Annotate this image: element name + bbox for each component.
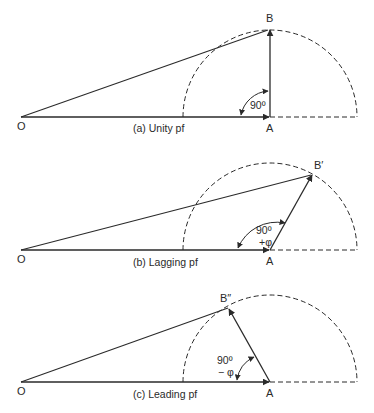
caption-b: (b) Lagging pf [133,257,198,268]
label-point-B-a: B [266,13,273,24]
label-point-O-b: O [17,254,26,265]
panel-b-lagging-pf [21,163,357,250]
label-angle-phi-b: +φ [259,237,272,248]
label-angle-b: 90º [256,225,272,236]
label-point-A-b: A [266,256,273,267]
panel-a-unity-pf [21,30,357,117]
semicircle-c [183,295,357,382]
label-point-A-a: A [266,123,273,134]
label-point-B-prime-b: B′ [314,160,323,171]
line-OB-a [21,30,268,117]
angle-arc-c [237,357,254,380]
phasor-diagram: B O A 90º (a) Unity pf B′ O A 90º +φ (b)… [0,0,374,413]
label-point-A-c: A [266,388,273,399]
label-angle-a: 90º [250,100,266,111]
diagram-drawing [0,0,374,413]
caption-a: (a) Unity pf [133,123,184,134]
label-point-O-a: O [17,121,26,132]
label-angle-phi-c: − φ [218,367,234,378]
phasor-AB-c [229,309,270,382]
label-point-O-c: O [17,386,26,397]
panel-c-leading-pf [21,295,357,382]
label-point-B-double-prime-c: B″ [220,293,231,304]
line-OB-c [21,308,228,382]
caption-c: (c) Leading pf [133,389,197,400]
phasor-AB-b [270,175,312,250]
label-angle-c: 90º [217,355,233,366]
